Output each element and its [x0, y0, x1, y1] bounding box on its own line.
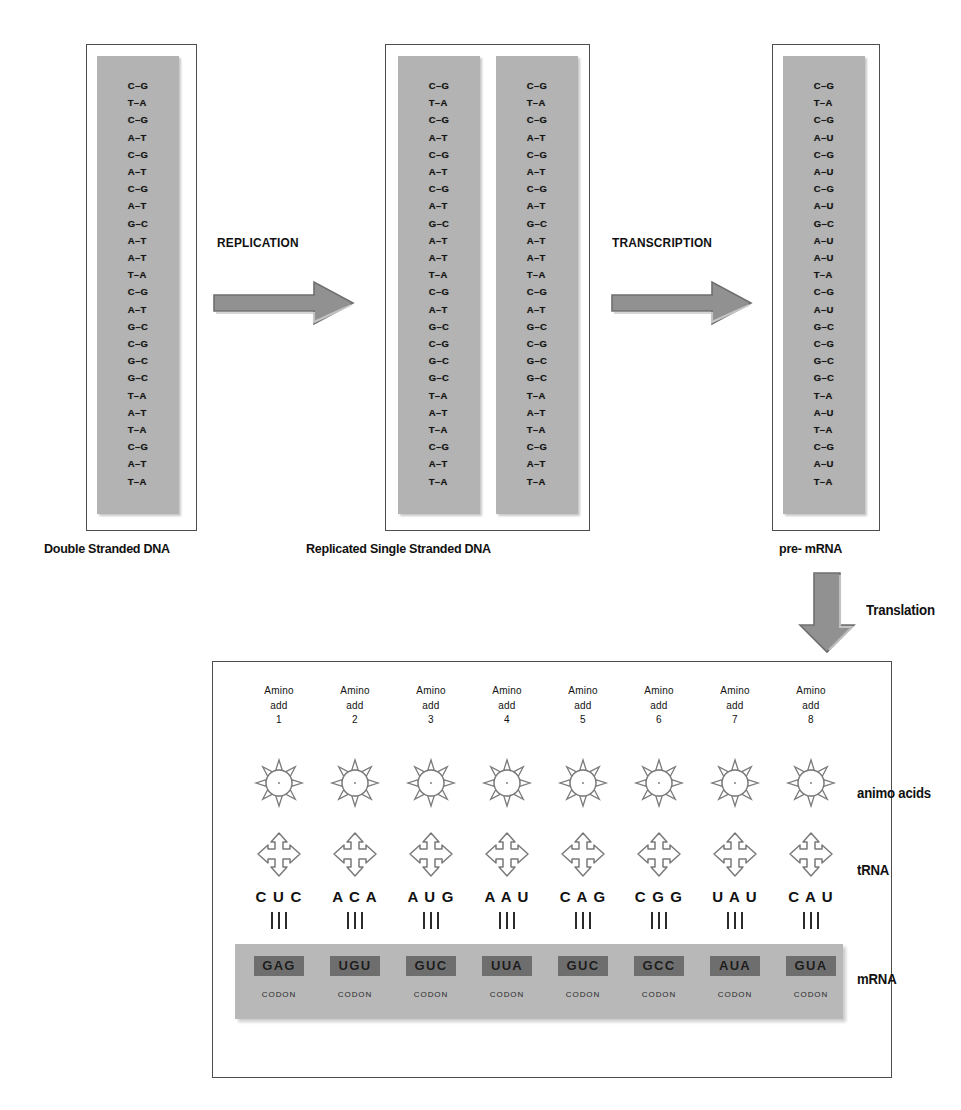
transcription-arrow-label: TRANSCRIPTION [612, 236, 712, 250]
dna-base-pair-item: G–C [128, 318, 149, 335]
replicated-b-base-pair-item: T–A [527, 421, 548, 438]
replicated-b-base-pair-item: C–G [527, 77, 548, 94]
replicated-a-base-pair-item: T–A [429, 94, 450, 111]
replicated-a-base-pair-item: T–A [429, 266, 450, 283]
pre-mrna-base-pair-item: C–G [814, 283, 835, 300]
replicated-dna-strand-a: C–GT–AC–GA–TC–GA–TC–GA–TG–CA–TA–TT–AC–GA… [398, 56, 480, 514]
replicated-b-base-pair-item: C–G [527, 180, 548, 197]
mrna-codon-label: CODON [707, 990, 763, 999]
pre-mrna-base-pair-item: C–G [814, 77, 835, 94]
double-stranded-dna-caption: Double Stranded DNA [44, 541, 170, 556]
transcription-arrow-icon [608, 278, 758, 330]
dna-base-pair-item: G–C [128, 352, 149, 369]
pre-mrna-base-pair-item: T–A [814, 266, 835, 283]
hydrogen-bond [499, 912, 501, 929]
hydrogen-bond-group [327, 912, 383, 929]
pre-mrna-caption: pre- mRNA [779, 541, 842, 556]
amino-acid-heading-number: 1 [251, 713, 307, 728]
double-stranded-dna-strand: C–GT–AC–GA–TC–GA–TC–GA–TG–CA–TA–TT–AC–GA… [97, 56, 179, 514]
dna-base-pair-item: A–T [128, 249, 149, 266]
replicated-b-base-pair-item: A–T [527, 163, 548, 180]
translation-arrow-icon [796, 570, 862, 656]
mrna-codon-box: UUA [482, 956, 532, 976]
anticodon-text: A C A [327, 888, 383, 905]
amino-acid-icon [327, 755, 383, 815]
replicated-a-base-pair-item: G–C [429, 318, 450, 335]
hydrogen-bond-group [783, 912, 839, 929]
trna-icon [254, 830, 304, 884]
replicated-a-base-pair-item: A–T [429, 455, 450, 472]
replicated-a-base-pair-item: G–C [429, 352, 450, 369]
replicated-a-base-pair-item: T–A [429, 473, 450, 490]
dna-base-pair-item: A–T [128, 129, 149, 146]
replicated-a-base-pair-item: G–C [429, 369, 450, 386]
hydrogen-bond [575, 912, 577, 929]
amino-acid-icon [707, 755, 763, 815]
replicated-a-base-pair-item: C–G [429, 335, 450, 352]
dna-base-pair-item: T–A [128, 266, 149, 283]
replicated-b-base-pair-item: T–A [527, 387, 548, 404]
amino-acid-heading-number: 6 [631, 713, 687, 728]
hydrogen-bond [354, 912, 356, 929]
mrna-strip: GAGUGUGUCUUAGUCGCCAUAGUA CODONCODONCODON… [235, 944, 843, 1019]
dna-base-pair-item: A–T [128, 301, 149, 318]
hydrogen-bond [665, 912, 667, 929]
amino-acid-icon [479, 755, 535, 815]
pre-mrna-base-pair-item: C–G [814, 111, 835, 128]
replicated-b-base-pair-item: G–C [527, 352, 548, 369]
hydrogen-bond [361, 912, 363, 929]
hydrogen-bond [582, 912, 584, 929]
amino-acid-heading-number: 5 [555, 713, 611, 728]
amino-acid-heading-line1: Amino [403, 684, 459, 699]
mrna-codon-label: CODON [403, 990, 459, 999]
replicated-a-base-pair-item: G–C [429, 215, 450, 232]
amino-acid-heading-line1: Amino [707, 684, 763, 699]
amino-acid-heading-2: Aminoadd2 [327, 684, 383, 728]
amino-acid-heading-line2: add [707, 699, 763, 714]
pre-mrna-base-pair-item: C–G [814, 146, 835, 163]
trna-icon [634, 830, 684, 884]
amino-acid-heading-line2: add [327, 699, 383, 714]
pre-mrna-base-pair-item: T–A [814, 387, 835, 404]
mrna-codon-label: CODON [479, 990, 535, 999]
pre-mrna-base-pair-item: T–A [814, 421, 835, 438]
pre-mrna-base-pair-item: G–C [814, 352, 835, 369]
replicated-b-base-pair-item: T–A [527, 473, 548, 490]
hydrogen-bond [741, 912, 743, 929]
replicated-a-base-pair-item: A–T [429, 249, 450, 266]
hydrogen-bond-group [631, 912, 687, 929]
hydrogen-bond [430, 912, 432, 929]
amino-acid-heading-number: 3 [403, 713, 459, 728]
replicated-a-base-pair-item: C–G [429, 180, 450, 197]
amino-acid-heading-number: 4 [479, 713, 535, 728]
replicated-a-base-pair-item: A–T [429, 197, 450, 214]
mrna-codon-box: UGU [330, 956, 380, 976]
hydrogen-bond [271, 912, 273, 929]
dna-base-pair-item: C–G [128, 438, 149, 455]
replicated-a-base-pair-item: A–T [429, 232, 450, 249]
pre-mrna-base-pair-item: A–U [814, 301, 835, 318]
amino-acid-heading-8: Aminoadd8 [783, 684, 839, 728]
dna-base-pair-item: C–G [128, 283, 149, 300]
replicated-b-base-pair-item: C–G [527, 438, 548, 455]
mrna-codon-box: GUA [786, 956, 836, 976]
hydrogen-bond [513, 912, 515, 929]
double-stranded-dna-box: C–GT–AC–GA–TC–GA–TC–GA–TG–CA–TA–TT–AC–GA… [86, 44, 197, 531]
dna-base-pair-item: A–T [128, 197, 149, 214]
amino-acid-heading-line2: add [783, 699, 839, 714]
amino-acid-heading-6: Aminoadd6 [631, 684, 687, 728]
pre-mrna-base-pair-item: A–U [814, 455, 835, 472]
pre-mrna-base-pair-item: C–G [814, 335, 835, 352]
replicated-strand-a-base-pair-list: C–GT–AC–GA–TC–GA–TC–GA–TG–CA–TA–TT–AC–GA… [429, 77, 450, 490]
pre-mrna-base-pair-item: A–U [814, 163, 835, 180]
trna-icon [330, 830, 380, 884]
hydrogen-bond [727, 912, 729, 929]
replicated-b-base-pair-item: G–C [527, 215, 548, 232]
anticodon-text: C U C [251, 888, 307, 905]
dna-base-pair-item: C–G [128, 77, 149, 94]
trna-icon [406, 830, 456, 884]
dna-base-pair-item: G–C [128, 215, 149, 232]
pre-mrna-base-pair-item: G–C [814, 215, 835, 232]
pre-mrna-base-pair-item: C–G [814, 438, 835, 455]
dna-base-pair-item: T–A [128, 421, 149, 438]
